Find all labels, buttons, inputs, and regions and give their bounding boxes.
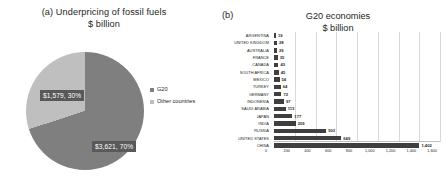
bar-category-labels: ARGENTINAUNITED KINGDOMAUSTRALIAFRANCECA… xyxy=(216,32,272,142)
bar-category-label: AUSTRALIA xyxy=(216,48,272,53)
x-axis-tick-label: 800 xyxy=(346,148,352,154)
x-axis-tick-label: 1,400 xyxy=(406,148,416,154)
panel-a-marker: (a) xyxy=(42,7,54,17)
bar-category-row: UNITED KINGDOM xyxy=(216,39,272,46)
bar xyxy=(274,48,277,52)
x-axis-tick-label: 400 xyxy=(304,148,310,154)
bar-category-label: CANADA xyxy=(216,62,272,67)
bar-row: 29 xyxy=(274,47,440,54)
gridline xyxy=(440,32,441,142)
bar-plot-area: ARGENTINAUNITED KINGDOMAUSTRALIAFRANCECA… xyxy=(216,32,440,148)
bar xyxy=(274,99,284,103)
panel-a-marker-and-title: (a) Underpricing of fossil fuels xyxy=(42,7,167,17)
bar-category-label: UNITED STATES xyxy=(216,136,272,141)
bar xyxy=(274,114,292,118)
legend-item-other-countries: Other countries xyxy=(150,98,195,105)
bar-row: 43 xyxy=(274,61,440,68)
bar-category-row: CHINA xyxy=(216,142,272,149)
panel-b-marker: (b) xyxy=(222,10,233,20)
bar-category-row: MEXICO xyxy=(216,76,272,83)
bar-value-label: 72 xyxy=(283,92,288,97)
x-axis-tick-label: 0 xyxy=(265,148,267,154)
x-axis-tick-label: 1,200 xyxy=(386,148,396,154)
bar-row: 649 xyxy=(274,135,440,142)
bar xyxy=(274,129,326,133)
x-axis-tick-label: 1,600 xyxy=(427,148,437,154)
bar-category-row: SOUTH AFRICA xyxy=(216,69,272,76)
bar-category-row: RUSSIA xyxy=(216,127,272,134)
bar xyxy=(274,33,276,37)
bar-category-row: AUSTRALIA xyxy=(216,47,272,54)
bar-category-label: RUSSIA xyxy=(216,128,272,133)
bar-value-label: 35 xyxy=(280,55,285,60)
bar-row: 45 xyxy=(274,69,440,76)
bar xyxy=(274,55,278,59)
bar xyxy=(274,85,281,89)
bar xyxy=(274,41,277,45)
x-axis-tick-label: 200 xyxy=(284,148,290,154)
bar-category-label: JAPAN xyxy=(216,114,272,119)
panel-b-bar-chart: (b) G20 economies $ billion ARGENTINAUNI… xyxy=(208,0,448,180)
bar-row: 28 xyxy=(274,39,440,46)
pie-slices xyxy=(26,52,144,170)
bar xyxy=(274,136,341,140)
bar-category-row: UNITED STATES xyxy=(216,135,272,142)
pie-legend: G20 Other countries xyxy=(150,86,195,110)
panel-a-title-line2: $ billion xyxy=(0,18,208,30)
bar-category-row: INDONESIA xyxy=(216,98,272,105)
bar-category-row: SAUDI ARABIA xyxy=(216,105,272,112)
bar-value-label: 177 xyxy=(294,114,301,119)
bar-value-label: 503 xyxy=(328,128,335,133)
bar-category-row: INDIA xyxy=(216,120,272,127)
legend-swatch-icon-other-countries xyxy=(150,100,154,104)
bar xyxy=(274,70,279,74)
bar-value-label: 19 xyxy=(278,33,283,38)
bar-value-label: 45 xyxy=(281,70,286,75)
bar-series: 192829354345546472971131772095036491,402 xyxy=(274,32,440,142)
bar-category-label: MEXICO xyxy=(216,77,272,82)
bar-value-label: 54 xyxy=(282,77,287,82)
bar-category-label: CHINA xyxy=(216,143,272,148)
bar-category-row: JAPAN xyxy=(216,113,272,120)
panel-a-title-line1: Underpricing of fossil fuels xyxy=(56,7,167,17)
bar-category-label: ARGENTINA xyxy=(216,33,272,38)
bar-row: 177 xyxy=(274,113,440,120)
bar-row: 35 xyxy=(274,54,440,61)
legend-label-g20: G20 xyxy=(157,86,168,93)
pie-label-g20: $3,621, 70% xyxy=(92,141,136,152)
bar-value-label: 113 xyxy=(288,106,295,111)
x-axis-tick-label: 1,000 xyxy=(365,148,375,154)
bar-category-row: ARGENTINA xyxy=(216,32,272,39)
bar-value-label: 29 xyxy=(279,48,284,53)
bar-row: 54 xyxy=(274,76,440,83)
bar-row: 209 xyxy=(274,120,440,127)
bar-category-label: TURKEY xyxy=(216,84,272,89)
bar-category-label: INDIA xyxy=(216,121,272,126)
bar-value-label: 64 xyxy=(283,84,288,89)
bar-row: 97 xyxy=(274,98,440,105)
bar-category-label: FRANCE xyxy=(216,55,272,60)
bar-value-label: 649 xyxy=(343,136,350,141)
bar xyxy=(274,92,281,96)
bar xyxy=(274,63,278,67)
bar-category-label: INDONESIA xyxy=(216,99,272,104)
bar-category-row: TURKEY xyxy=(216,83,272,90)
bar-row: 72 xyxy=(274,91,440,98)
bar-value-label: 209 xyxy=(298,121,305,126)
bar xyxy=(274,107,286,111)
panel-b-title-line1: G20 economies xyxy=(306,11,370,21)
legend-swatch-icon-g20 xyxy=(150,88,154,92)
x-axis-ticks: 02004006008001,0001,2001,4001,600 xyxy=(266,148,448,160)
panel-a-pie-chart: (a) Underpricing of fossil fuels $ billi… xyxy=(0,0,208,180)
bar-row: 503 xyxy=(274,127,440,134)
bar-category-row: CANADA xyxy=(216,61,272,68)
bar-row: 64 xyxy=(274,83,440,90)
bar-category-label: GERMANY xyxy=(216,92,272,97)
bar-row: 113 xyxy=(274,105,440,112)
pie-chart: $1,579, 30% $3,621, 70% xyxy=(26,52,144,170)
legend-label-other-countries: Other countries xyxy=(157,98,195,105)
bar-category-label: SAUDI ARABIA xyxy=(216,106,272,111)
panel-b-title: G20 economies $ billion xyxy=(238,10,438,34)
bar xyxy=(274,77,280,81)
bar xyxy=(274,121,296,125)
